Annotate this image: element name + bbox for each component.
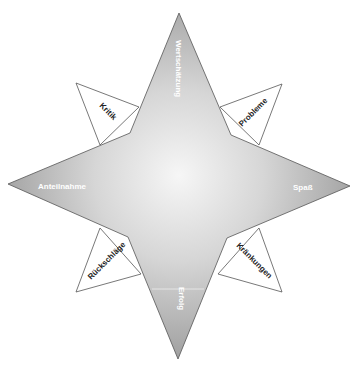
label-left: Anteilnahme (38, 182, 87, 191)
compass-star-diagram: Wertschätzung Spaß Erfolg Anteilnahme Kr… (0, 0, 360, 366)
label-bottom: Erfolg (177, 287, 186, 310)
label-right: Spaß (293, 183, 313, 192)
label-top: Wertschätzung (174, 40, 183, 97)
